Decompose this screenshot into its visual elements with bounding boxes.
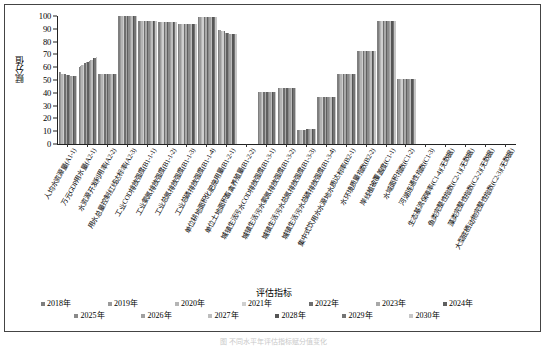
legend-item[interactable]: 2020年 — [175, 299, 242, 309]
legend-item[interactable]: 2023年 — [376, 299, 443, 309]
bar-group — [118, 16, 138, 144]
legend-swatch-icon — [242, 302, 246, 306]
bar-group — [456, 16, 476, 144]
legend-swatch-icon — [175, 302, 179, 306]
legend-swatch-icon — [342, 314, 346, 318]
y-tick-label: 100 — [39, 12, 51, 21]
y-tick-label: 50 — [43, 76, 51, 85]
y-tick-label: 40 — [43, 89, 51, 98]
bar-group — [138, 16, 158, 144]
y-tick-label: 10 — [43, 127, 51, 136]
y-axis-ticks: 0102030405060708090100 — [0, 16, 57, 144]
legend-swatch-icon — [41, 302, 45, 306]
bar-group — [58, 16, 78, 144]
bar-group — [217, 16, 237, 144]
bar-group — [436, 16, 456, 144]
legend-label: 2029年 — [349, 311, 373, 321]
chart-figure: 赋分值 0102030405060708090100 人均水资源量(A1-1)万… — [0, 0, 547, 350]
y-tick-label: 70 — [43, 50, 51, 59]
legend-item[interactable]: 2030年 — [409, 311, 476, 321]
bar-group — [476, 16, 496, 144]
figure-caption: 图 不同水平年评估指标赋分值变化 — [0, 336, 547, 346]
legend-item[interactable]: 2019年 — [108, 299, 175, 309]
y-tick-label: 90 — [43, 25, 51, 34]
legend-item[interactable]: 2021年 — [242, 299, 309, 309]
bar-group — [297, 16, 317, 144]
plot-area — [57, 16, 516, 145]
legend-label: 2028年 — [282, 311, 306, 321]
x-axis-labels: 人均水资源量(A1-1)万元GDP用水量(A2-1)水资源开发利用率(A2-2)… — [57, 147, 515, 282]
bar-group — [257, 16, 277, 144]
legend-item[interactable]: 2027年 — [208, 311, 275, 321]
legend-label: 2022年 — [315, 299, 339, 309]
legend-label: 2021年 — [248, 299, 272, 309]
y-tick-label: 60 — [43, 63, 51, 72]
legend-label: 2023年 — [382, 299, 406, 309]
legend-label: 2027年 — [215, 311, 239, 321]
y-tick-label: 30 — [43, 101, 51, 110]
bar-group — [177, 16, 197, 144]
legend-swatch-icon — [309, 302, 313, 306]
y-tick-label: 0 — [47, 140, 51, 149]
legend-swatch-icon — [208, 314, 212, 318]
legend-label: 2020年 — [181, 299, 205, 309]
bar-group — [277, 16, 297, 144]
legend-item[interactable]: 2029年 — [342, 311, 409, 321]
legend-label: 2026年 — [148, 311, 172, 321]
bar-group — [416, 16, 436, 144]
legend-item[interactable]: 2025年 — [74, 311, 141, 321]
y-tick-label: 80 — [43, 37, 51, 46]
legend-swatch-icon — [74, 314, 78, 318]
legend-swatch-icon — [275, 314, 279, 318]
legend-label: 2019年 — [114, 299, 138, 309]
legend-label: 2025年 — [81, 311, 105, 321]
legend-item[interactable]: 2028年 — [275, 311, 342, 321]
bar-group — [337, 16, 357, 144]
legend-label: 2024年 — [449, 299, 473, 309]
legend-swatch-icon — [443, 302, 447, 306]
legend-swatch-icon — [409, 314, 413, 318]
legend-item[interactable]: 2024年 — [443, 299, 510, 309]
legend-label: 2030年 — [416, 311, 440, 321]
bar-group — [496, 16, 516, 144]
legend: 2018年2019年2020年2021年2022年2023年2024年2025年… — [40, 299, 510, 321]
bar-group — [396, 16, 416, 144]
legend-item[interactable]: 2018年 — [41, 299, 108, 309]
bar-groups — [58, 16, 516, 144]
bar-group — [377, 16, 397, 144]
legend-item[interactable]: 2022年 — [309, 299, 376, 309]
legend-item[interactable]: 2026年 — [141, 311, 208, 321]
legend-swatch-icon — [108, 302, 112, 306]
bar-group — [357, 16, 377, 144]
x-axis-title: 评估指标 — [0, 286, 547, 299]
bar-group — [237, 16, 257, 144]
bar-group — [197, 16, 217, 144]
legend-label: 2018年 — [47, 299, 71, 309]
legend-swatch-icon — [376, 302, 380, 306]
bar-group — [317, 16, 337, 144]
bar-group — [78, 16, 98, 144]
y-tick-label: 20 — [43, 114, 51, 123]
legend-swatch-icon — [141, 314, 145, 318]
bar-group — [158, 16, 178, 144]
bar-group — [98, 16, 118, 144]
